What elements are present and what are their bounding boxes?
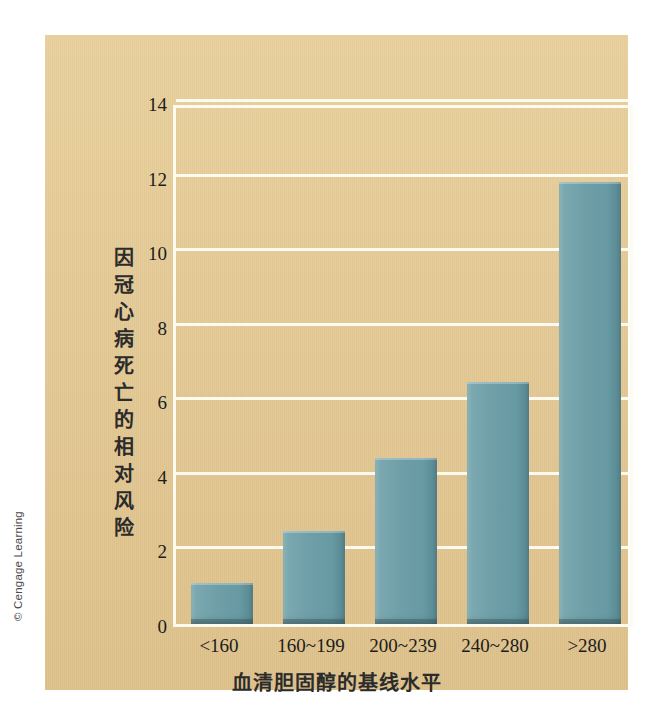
y-axis-tick-label: 14: [137, 94, 167, 116]
plot-area: [173, 105, 633, 627]
figure-panel: 因冠心病死亡的相对风险 02468101214 血清胆固醇的基线水平 <1601…: [45, 35, 628, 690]
y-axis-tick-label: 12: [137, 169, 167, 191]
gridline: [176, 99, 630, 102]
bar: [375, 458, 437, 624]
y-axis-tick-label: 2: [137, 541, 167, 563]
copyright-credit: © Cengage Learning: [12, 486, 24, 646]
bar: [467, 382, 529, 624]
bar: [559, 182, 621, 624]
y-axis-tick-label: 10: [137, 243, 167, 265]
bar: [283, 531, 345, 624]
y-axis-tick-label: 8: [137, 318, 167, 340]
x-axis-tick-label: >280: [527, 635, 647, 657]
y-axis-tick-label: 4: [137, 467, 167, 489]
y-axis-tick-labels: 02468101214: [133, 105, 167, 627]
gridline: [176, 174, 630, 177]
bar: [191, 583, 253, 624]
y-axis-tick-label: 6: [137, 392, 167, 414]
x-axis-title: 血清胆固醇的基线水平: [45, 667, 628, 696]
